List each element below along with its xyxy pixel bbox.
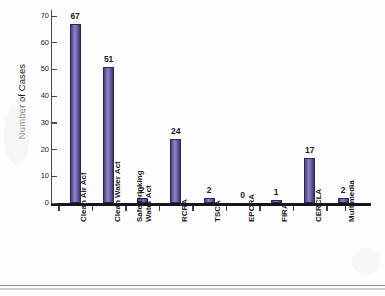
y-axis-tick-mark <box>52 96 57 97</box>
page-edge-line <box>0 285 385 286</box>
y-axis-tick: 20 <box>25 145 57 155</box>
x-axis-category-label-line: FIRA <box>280 203 289 222</box>
y-axis-tick-label: 20 <box>41 145 49 155</box>
x-axis-category-label: CERCLA <box>314 189 324 222</box>
bar-chart-figure: Number of Cases 010203040506070 67512242… <box>0 0 385 296</box>
bar-value-label: 1 <box>256 187 296 197</box>
y-axis-tick-mark <box>52 122 57 123</box>
x-axis-tick-mark <box>58 206 59 211</box>
y-axis-tick: 50 <box>25 64 57 74</box>
x-axis-tick-mark <box>159 206 160 211</box>
x-axis-tick-mark <box>326 206 327 211</box>
x-axis-category-label-line: TSCA <box>213 200 222 222</box>
x-axis-category-label-line: Water Act <box>144 170 153 222</box>
scan-smudge <box>352 248 380 274</box>
x-axis-category-label: TSCA <box>213 200 223 222</box>
y-axis-tick: 10 <box>25 171 57 181</box>
y-axis-tick-label: 0 <box>45 198 49 208</box>
y-axis-tick: 60 <box>25 38 57 48</box>
y-axis-tick: 70 <box>25 11 57 21</box>
bar-value-label: 67 <box>55 11 95 21</box>
bar-value-label: 2 <box>323 185 363 195</box>
x-axis-category-label: EPCRA <box>247 194 257 222</box>
x-axis-tick-mark <box>259 206 260 211</box>
x-axis-category-label: Safe DrinkingWater Act <box>135 170 154 222</box>
x-axis-category-label-line: CERCLA <box>314 189 323 222</box>
bar-value-label: 51 <box>89 54 129 64</box>
y-axis-tick-mark <box>52 176 57 177</box>
y-axis-tick-mark <box>52 42 57 43</box>
y-axis-tick: 0 <box>25 198 57 208</box>
x-axis-category-label-line: RCRA <box>180 199 189 222</box>
x-axis-category-label: Clean Water Act <box>113 161 123 222</box>
x-axis-category-label: Clean Air Act <box>79 172 89 222</box>
y-axis-tick-label: 60 <box>41 38 49 48</box>
x-axis-category-label-line: EPCRA <box>247 194 256 222</box>
bar <box>170 139 181 203</box>
y-axis-tick-mark <box>52 149 57 150</box>
x-axis-category-label-line: Clean Water Act <box>113 161 122 222</box>
bar-value-label: 17 <box>290 145 330 155</box>
x-axis-category-label-line: Safe Drinking <box>135 170 144 222</box>
y-axis-tick: 30 <box>25 118 57 128</box>
x-axis-tick-mark <box>92 206 93 211</box>
x-axis-tick-mark <box>293 206 294 211</box>
y-axis-tick-mark <box>52 203 57 204</box>
x-axis-category-label-line: Clean Air Act <box>79 172 88 222</box>
x-axis-category-label: RCRA <box>180 199 190 222</box>
x-axis-tick-mark <box>125 206 126 211</box>
y-axis-tick-label: 30 <box>41 118 49 128</box>
page-edge-line-secondary <box>0 288 385 290</box>
x-axis-tick-mark <box>192 206 193 211</box>
bar-value-label: 24 <box>156 126 196 136</box>
x-axis-category-label: FIRA <box>280 203 290 222</box>
y-axis-tick-mark <box>52 69 57 70</box>
y-axis-tick: 40 <box>25 91 57 101</box>
y-axis-tick-label: 10 <box>41 171 49 181</box>
y-axis-tick-label: 70 <box>41 11 49 21</box>
x-axis-category-label-line: Multimedia <box>347 180 356 222</box>
plot-area: 010203040506070 6751224201172 Clean Air … <box>51 10 371 205</box>
x-axis-category-label: Multimedia <box>347 180 357 222</box>
x-axis-tick-mark <box>226 206 227 211</box>
scan-smudge <box>4 105 30 165</box>
y-axis-tick-label: 40 <box>41 91 49 101</box>
y-axis-tick-label: 50 <box>41 64 49 74</box>
